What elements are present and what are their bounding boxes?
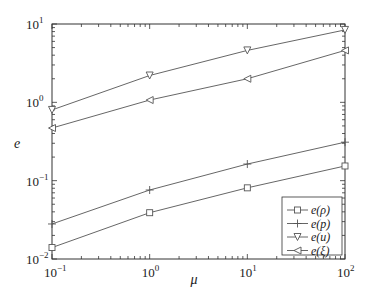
triangle-down-marker-icon bbox=[244, 47, 251, 54]
y-tick-labels: 10−210−1100101 bbox=[26, 15, 49, 267]
series-3 bbox=[49, 47, 349, 132]
triangle-left-marker-icon bbox=[146, 97, 153, 104]
square-marker-icon bbox=[147, 210, 153, 216]
square-marker-icon bbox=[342, 163, 348, 169]
x-tick-label: 101 bbox=[239, 263, 256, 280]
legend-label: e(p) bbox=[311, 217, 330, 231]
square-marker-icon bbox=[49, 245, 55, 251]
y-axis-label: e bbox=[14, 136, 20, 151]
series-line bbox=[52, 30, 345, 110]
legend: e(ρ)e(p)e(u)e(ξ) bbox=[282, 197, 342, 258]
x-axis-label: μ bbox=[189, 272, 197, 287]
square-marker-icon bbox=[244, 185, 250, 191]
y-tick-label: 10−1 bbox=[26, 172, 49, 189]
series-2 bbox=[49, 26, 349, 113]
legend-label: e(ρ) bbox=[311, 203, 330, 217]
legend-label: e(ξ) bbox=[311, 244, 329, 258]
legend-label: e(u) bbox=[311, 230, 330, 244]
x-tick-label: 10−1 bbox=[44, 263, 67, 280]
triangle-down-marker-icon bbox=[146, 72, 153, 79]
chart: 10−210−1100101 10−1100101102 e μ e(ρ)e(p… bbox=[0, 0, 369, 292]
square-marker-icon bbox=[295, 207, 301, 213]
x-tick-labels: 10−1100101102 bbox=[44, 263, 355, 280]
triangle-down-marker-icon bbox=[342, 26, 349, 33]
x-tick-label: 100 bbox=[142, 263, 160, 280]
series-line bbox=[52, 50, 345, 128]
y-tick-label: 101 bbox=[26, 15, 44, 32]
triangle-left-marker-icon bbox=[244, 75, 251, 82]
y-tick-label: 100 bbox=[26, 93, 44, 110]
x-tick-label: 102 bbox=[337, 263, 355, 280]
